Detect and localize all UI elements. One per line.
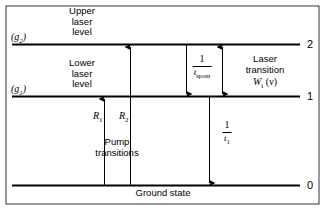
pump-transition-label-2: R2	[119, 110, 129, 125]
laser-caption-line-2: transition	[246, 65, 285, 76]
spont-denominator: tspont	[193, 67, 212, 79]
upper-laser-level-label: Upper laser level	[69, 6, 95, 38]
ground-state-label: Ground state	[136, 188, 191, 199]
pump-caption-line-2: transitions	[95, 148, 138, 159]
pump-transitions-caption: Pump transitions	[95, 137, 138, 158]
laser-transition-symbol: Wi (ν)	[246, 76, 285, 91]
lower-laser-level-label: Lower laser level	[69, 58, 95, 90]
decay-numerator: 1	[223, 120, 232, 131]
lower-laser-level-line-3: level	[69, 79, 95, 90]
decay-denominator: t1	[223, 133, 232, 145]
diagram-canvas	[0, 0, 326, 210]
upper-laser-level-line-3: level	[69, 27, 95, 38]
spontaneous-emission-rate-label: 1 tspont	[193, 54, 212, 79]
spont-numerator: 1	[193, 54, 212, 65]
energy-level-diagram: (g2) (g1) 2 1 0 Upper laser level Lower …	[0, 0, 326, 210]
lower-level-decay-rate-label: 1 t1	[223, 120, 232, 145]
degeneracy-label-level-2: (g2)	[11, 31, 26, 46]
degeneracy-label-level-1: (g1)	[11, 83, 26, 98]
level-number-1: 1	[307, 90, 313, 102]
laser-transition-caption: Laser transition Wi (ν)	[246, 54, 285, 91]
figure-border	[6, 6, 319, 204]
level-number-2: 2	[307, 38, 313, 50]
pump-transition-label-1: R1	[93, 110, 103, 125]
level-number-0: 0	[307, 179, 313, 191]
